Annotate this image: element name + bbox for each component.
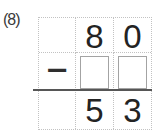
minuend-tens-digit: 8 [85,18,103,53]
grid-cell-minuend-ones: 0 [114,18,151,53]
result-ones-digit: 3 [123,92,141,127]
grid-cell-operator: − [39,53,76,90]
subtraction-grid: 8 0 − 5 3 [38,17,152,130]
grid-cell-minuend-tens: 8 [76,18,113,53]
answer-box-ones[interactable] [118,56,147,89]
grid-cell-subtrahend-tens [76,53,113,90]
grid-cell-subtrahend-ones [114,53,151,90]
answer-box-tens[interactable] [80,56,109,89]
worksheet-problem: (8) 8 0 − 5 3 [0,0,157,137]
minus-operator: − [47,56,68,88]
subtraction-rule-line [33,89,152,91]
grid-cell-result-ones: 3 [114,90,151,129]
result-tens-digit: 5 [85,92,103,127]
grid-cell-empty [39,90,76,129]
grid-cell-result-tens: 5 [76,90,113,129]
grid-cell-empty [39,18,76,53]
minuend-ones-digit: 0 [123,18,141,53]
problem-number-label: (8) [3,11,20,29]
